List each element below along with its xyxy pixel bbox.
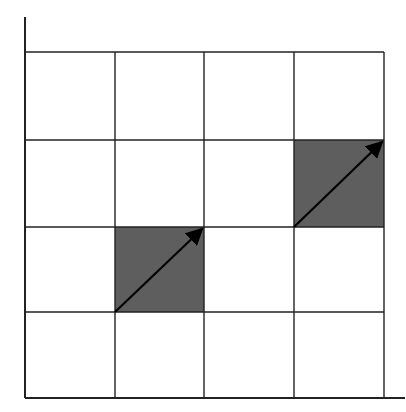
grid-diagram xyxy=(0,0,406,412)
